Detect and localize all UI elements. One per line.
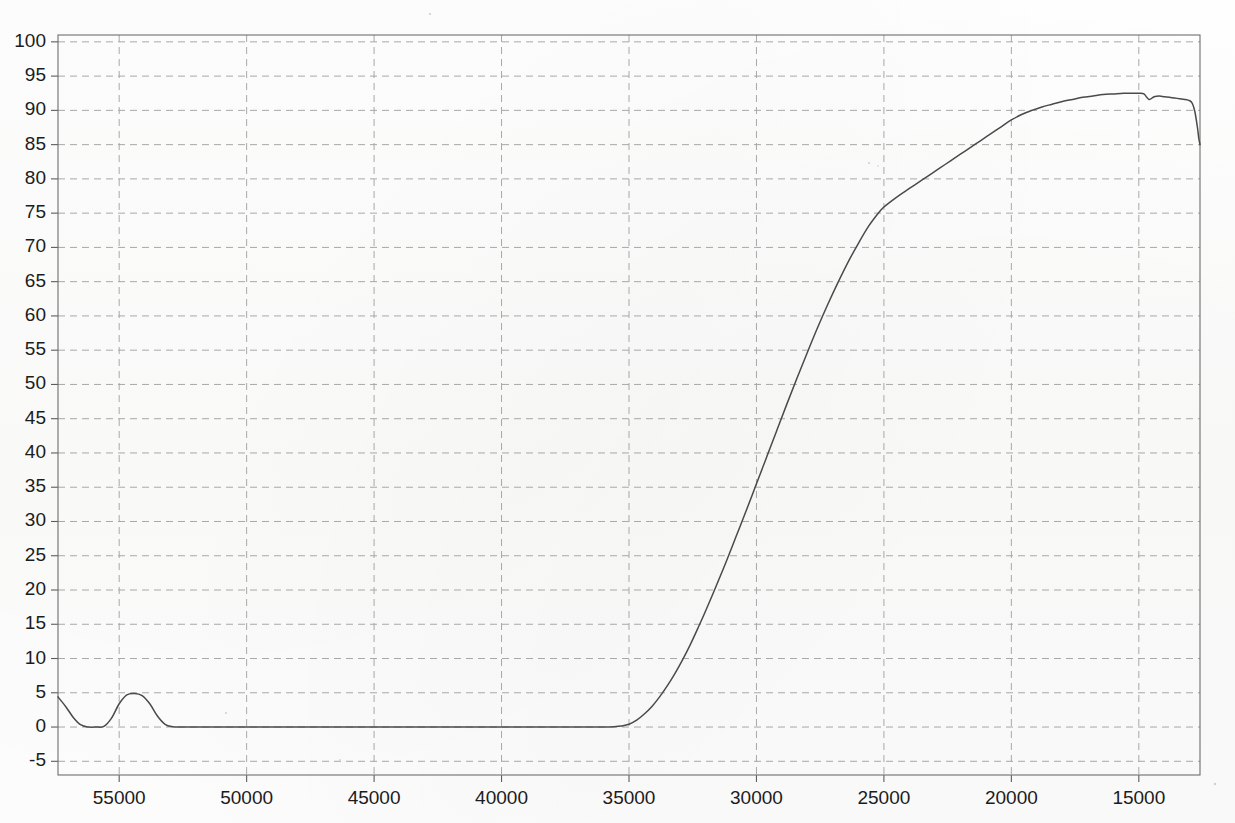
x-tick-label: 30000 (730, 787, 783, 808)
y-tick-label: 10 (25, 647, 46, 668)
plot-area: -505101520253035404550556065707580859095… (0, 0, 1235, 823)
x-tick-label: 40000 (475, 787, 528, 808)
x-axis-labels: 5500050000450004000035000300002500020000… (93, 787, 1165, 808)
y-tick-label: 80 (25, 167, 46, 188)
y-tick-label: 0 (35, 715, 46, 736)
gridlines (58, 35, 1200, 775)
y-tick-label: 100 (14, 30, 46, 51)
y-tick-label: 60 (25, 304, 46, 325)
spectrum-chart: -505101520253035404550556065707580859095… (0, 0, 1235, 823)
x-tick-label: 25000 (857, 787, 910, 808)
y-axis-labels: -505101520253035404550556065707580859095… (14, 30, 46, 770)
y-tick-label: 65 (25, 270, 46, 291)
y-tick-label: -5 (29, 749, 46, 770)
x-tick-label: 15000 (1112, 787, 1165, 808)
y-tick-label: 25 (25, 544, 46, 565)
y-tick-label: 85 (25, 133, 46, 154)
chart-page: -505101520253035404550556065707580859095… (0, 0, 1235, 823)
y-tick-label: 20 (25, 578, 46, 599)
y-tick-label: 75 (25, 201, 46, 222)
y-tick-label: 35 (25, 475, 46, 496)
x-tick-label: 45000 (348, 787, 401, 808)
y-tick-label: 30 (25, 509, 46, 530)
y-tick-label: 50 (25, 372, 46, 393)
tickmarks (51, 42, 1139, 782)
x-tick-label: 50000 (220, 787, 273, 808)
x-tick-label: 35000 (603, 787, 656, 808)
y-tick-label: 45 (25, 407, 46, 428)
y-tick-label: 5 (35, 681, 46, 702)
x-tick-label: 55000 (93, 787, 146, 808)
y-tick-label: 95 (25, 64, 46, 85)
y-tick-label: 15 (25, 612, 46, 633)
y-tick-label: 70 (25, 235, 46, 256)
y-tick-label: 90 (25, 98, 46, 119)
y-tick-label: 40 (25, 441, 46, 462)
x-tick-label: 20000 (985, 787, 1038, 808)
y-tick-label: 55 (25, 338, 46, 359)
